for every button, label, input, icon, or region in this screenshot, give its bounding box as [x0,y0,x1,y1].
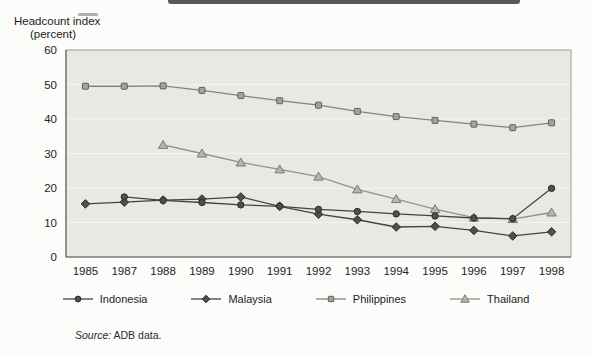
marker-indonesia [238,202,244,208]
y-tick-label-30: 30 [44,148,57,160]
x-tick-label-1987: 1987 [111,265,137,277]
square-legend-icon [316,293,346,305]
legend-item-indonesia: Indonesia [63,293,148,305]
x-tick-label-1995: 1995 [422,265,448,277]
chart-legend: IndonesiaMalaysiaPhilippinesThailand [0,293,592,305]
legend-label-thailand: Thailand [487,293,529,305]
x-tick-label-1989: 1989 [189,265,215,277]
x-tick-label-1990: 1990 [228,265,254,277]
marker-philippines [277,98,283,104]
marker-indonesia [121,194,127,200]
x-tick-label-1998: 1998 [539,265,565,277]
y-tick-label-20: 20 [44,182,57,194]
legend-item-thailand: Thailand [450,293,529,305]
circle-legend-icon [63,293,93,305]
chart-canvas: 0102030405060198519871988198919901991199… [0,0,592,288]
y-tick-label-60: 60 [44,44,57,56]
square-marker-icon [328,296,333,301]
marker-philippines [82,83,88,89]
y-tick-label-50: 50 [44,79,57,91]
x-tick-label-1994: 1994 [383,265,409,277]
diamond-legend-icon [191,293,221,305]
diamond-marker-icon [203,295,211,303]
marker-philippines [510,125,516,131]
marker-indonesia [393,211,399,217]
source-note: Source: ADB data. [75,329,161,341]
x-tick-label-1993: 1993 [345,265,371,277]
marker-philippines [549,120,555,126]
circle-marker-icon [75,296,81,302]
x-tick-label-1985: 1985 [73,265,99,277]
triangle-legend-icon [450,293,480,305]
marker-philippines [238,93,244,99]
marker-philippines [121,83,127,89]
marker-philippines [432,117,438,123]
legend-label-malaysia: Malaysia [228,293,271,305]
x-tick-label-1997: 1997 [500,265,526,277]
source-text: ADB data. [114,329,162,341]
marker-indonesia [471,215,477,221]
legend-item-philippines: Philippines [316,293,406,305]
marker-indonesia [315,206,321,212]
legend-label-indonesia: Indonesia [100,293,148,305]
x-tick-label-1991: 1991 [267,265,293,277]
marker-indonesia [510,216,516,222]
marker-philippines [316,102,322,108]
y-tick-label-10: 10 [44,217,57,229]
legend-label-philippines: Philippines [353,293,406,305]
marker-philippines [393,114,399,120]
marker-indonesia [199,199,205,205]
marker-philippines [354,108,360,114]
marker-indonesia [160,197,166,203]
x-tick-label-1988: 1988 [150,265,176,277]
legend-item-malaysia: Malaysia [191,293,271,305]
marker-indonesia [548,185,554,191]
x-tick-label-1996: 1996 [461,265,487,277]
source-label: Source: [75,329,111,341]
y-tick-label-0: 0 [51,251,57,263]
marker-philippines [471,121,477,127]
marker-philippines [160,83,166,89]
marker-philippines [199,87,205,93]
marker-indonesia [432,213,438,219]
marker-indonesia [276,203,282,209]
figure-poverty-headcount-chart: Headcount index (percent) 01020304050601… [0,0,592,358]
y-tick-label-40: 40 [44,113,57,125]
x-tick-label-1992: 1992 [306,265,332,277]
marker-indonesia [354,208,360,214]
